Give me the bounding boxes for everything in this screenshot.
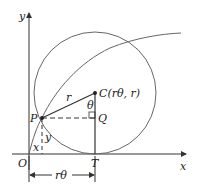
- angle-label: θ: [87, 99, 94, 112]
- point-q-label: Q: [98, 112, 107, 125]
- point-p-label: P: [29, 112, 38, 125]
- point-t-label: T: [91, 157, 100, 170]
- origin-label: O: [18, 157, 27, 170]
- x-segment-label: x: [33, 141, 40, 154]
- right-angle-marker: [89, 112, 95, 118]
- radius-label: r: [66, 91, 72, 104]
- y-segment-label: y: [44, 131, 52, 144]
- point-p: [40, 116, 44, 120]
- cycloid-diagram: y x O T P Q C(rθ, r) r θ x y rθ: [0, 0, 198, 191]
- point-c: [93, 91, 97, 95]
- arc-length-label: rθ: [55, 169, 67, 182]
- point-c-label: C(rθ, r): [99, 87, 140, 100]
- y-axis-label: y: [18, 10, 26, 23]
- x-axis-label: x: [180, 160, 187, 173]
